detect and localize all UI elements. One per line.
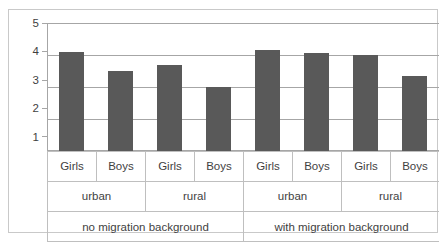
bar-2 [157, 65, 182, 151]
y-axis-tick-label-5: 5 [15, 18, 39, 29]
category-cell-sex-7: Boys [390, 151, 439, 181]
bar-1 [108, 71, 133, 151]
category-cell-sex-3: Boys [194, 151, 243, 181]
category-cell-sex-5: Boys [292, 151, 341, 181]
chart-frame: 5 4 3 2 1 [8, 9, 438, 233]
category-cell-sex-2: Girls [145, 151, 194, 181]
bar-4 [255, 50, 280, 151]
category-row-sex: Girls Boys Girls Boys Girls Boys Girls B… [47, 151, 439, 181]
category-cell-area-0: urban [47, 181, 145, 211]
category-cell-sex-4: Girls [243, 151, 292, 181]
y-axis-tick-label-3: 3 [15, 75, 39, 86]
category-row-area: urban rural urban rural [47, 181, 439, 211]
bar-6 [353, 55, 378, 151]
category-cell-area-1: rural [145, 181, 243, 211]
category-cell-sex-6: Girls [341, 151, 390, 181]
gridline-3 [47, 87, 439, 88]
gridline-4 [47, 55, 439, 56]
category-cell-migration-1: with migration background [243, 211, 439, 242]
bar-0 [59, 52, 84, 151]
gridline-5 [47, 23, 439, 24]
category-cell-sex-1: Boys [96, 151, 145, 181]
y-axis-tick-label-1: 1 [15, 132, 39, 143]
category-cell-migration-0: no migration background [47, 211, 243, 242]
plot-area [47, 23, 439, 151]
bar-chart-figure: 5 4 3 2 1 [0, 0, 448, 249]
category-cell-sex-0: Girls [47, 151, 96, 181]
y-axis-tick-label-4: 4 [15, 46, 39, 57]
bar-5 [304, 53, 329, 151]
gridline-2 [47, 119, 439, 120]
bar-3 [206, 87, 231, 151]
category-row-migration: no migration background with migration b… [47, 211, 439, 242]
bar-7 [402, 76, 427, 151]
category-cell-area-3: rural [341, 181, 439, 211]
y-axis-tick-label-2: 2 [15, 103, 39, 114]
category-axis: Girls Boys Girls Boys Girls Boys Girls B… [47, 151, 439, 242]
category-cell-area-2: urban [243, 181, 341, 211]
